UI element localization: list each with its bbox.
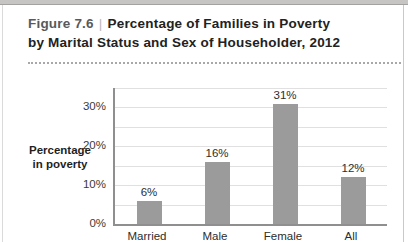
bar-female [273,104,298,224]
value-label-female: 31% [251,89,319,101]
gridline-30pct [115,107,387,108]
x-label-male: Male [181,230,249,242]
value-label-male: 16% [183,147,251,159]
value-label-all: 12% [319,162,387,174]
bar-married [137,201,162,224]
y-tick-30pct: 30% [58,100,106,112]
gridline-20pct [115,146,387,147]
gridline-25pct [115,127,387,128]
value-label-married: 6% [115,186,183,198]
y-tick-10pct: 10% [58,178,106,190]
y-tick-0pct: 0% [58,217,106,229]
x-label-female: Female [249,230,317,242]
bar-chart: Percentage in poverty 6%16%31%12% 0%10%2… [0,0,415,242]
y-tick-20pct: 20% [58,139,106,151]
bar-male [205,162,230,224]
x-label-all: All [317,230,385,242]
plot-area: 6%16%31%12% [113,88,387,226]
x-label-married: Married [113,230,181,242]
bar-all [341,177,366,224]
y-axis-title-line2: in poverty [33,158,88,170]
